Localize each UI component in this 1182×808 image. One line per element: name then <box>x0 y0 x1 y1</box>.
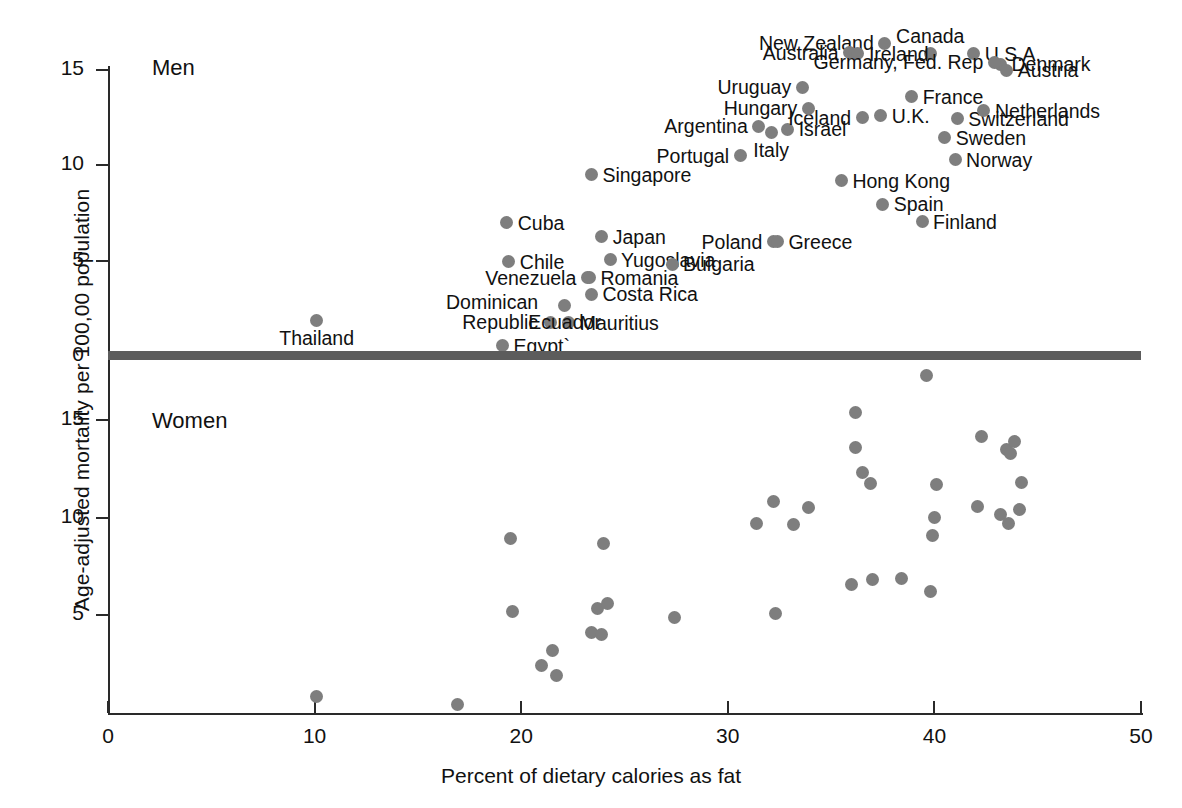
x-tick-30 <box>727 701 729 713</box>
point-label: Italy <box>753 140 789 161</box>
point-label: U.K. <box>892 105 930 126</box>
y-axis-spine <box>108 66 110 713</box>
data-point <box>595 628 608 641</box>
data-point <box>988 56 1001 69</box>
point-label: Japan <box>613 227 666 248</box>
data-point <box>951 112 964 125</box>
point-label: DominicanRepublic <box>446 292 538 333</box>
data-point <box>866 573 879 586</box>
point-label: Norway <box>966 149 1032 170</box>
point-label: Hungary <box>724 98 798 119</box>
data-point <box>583 271 596 284</box>
point-label: Bulgaria <box>683 254 755 275</box>
panel-divider <box>108 351 1141 360</box>
point-label: Venezuela <box>485 267 576 288</box>
data-point <box>506 605 519 618</box>
y-tick-label-men-10: 10 <box>38 151 84 175</box>
data-point <box>585 288 598 301</box>
data-point <box>938 131 951 144</box>
x-tick-label-0: 0 <box>78 724 138 748</box>
data-point <box>926 529 939 542</box>
data-point <box>765 126 778 139</box>
data-point <box>734 149 747 162</box>
data-point <box>930 478 943 491</box>
data-point <box>750 517 763 530</box>
data-point <box>920 369 933 382</box>
data-point <box>597 537 610 550</box>
data-point <box>535 659 548 672</box>
data-point <box>1000 64 1013 77</box>
y-tick-label-men-0: 0 <box>38 342 84 366</box>
data-point <box>500 216 513 229</box>
point-label: Ecuador <box>528 312 601 333</box>
data-point <box>971 500 984 513</box>
point-label: Cuba <box>518 212 565 233</box>
data-point <box>928 511 941 524</box>
data-point <box>752 120 765 133</box>
data-point <box>916 215 929 228</box>
y-tick-women-5 <box>96 614 108 616</box>
data-point <box>1015 476 1028 489</box>
data-point <box>1013 503 1026 516</box>
y-tick-label-women-5: 5 <box>38 601 84 625</box>
point-label: Sweden <box>956 127 1026 148</box>
data-point <box>874 109 887 122</box>
data-point <box>769 607 782 620</box>
data-point <box>949 153 962 166</box>
data-point <box>876 198 889 211</box>
y-tick-men-15 <box>96 69 108 71</box>
x-axis-spine <box>108 713 1143 715</box>
data-point <box>558 299 571 312</box>
data-point <box>849 406 862 419</box>
x-tick-0 <box>107 701 109 713</box>
x-axis-title: Percent of dietary calories as fat <box>0 764 1182 788</box>
data-point <box>451 698 464 711</box>
point-label: Austria <box>1018 60 1079 81</box>
point-label: Finland <box>933 211 997 232</box>
y-tick-label-men-5: 5 <box>38 247 84 271</box>
data-point <box>849 441 862 454</box>
x-tick-label-40: 40 <box>904 724 964 748</box>
data-point <box>666 258 679 271</box>
data-point <box>310 314 323 327</box>
data-point <box>835 174 848 187</box>
x-tick-label-10: 10 <box>285 724 345 748</box>
data-point <box>771 235 784 248</box>
data-point <box>604 253 617 266</box>
y-tick-label-women-10: 10 <box>38 504 84 528</box>
y-tick-men-5 <box>96 260 108 262</box>
data-point <box>802 102 815 115</box>
point-label: Singapore <box>602 165 691 186</box>
y-tick-women-15 <box>96 419 108 421</box>
point-label: Netherlands <box>995 101 1100 122</box>
panel-label-men: Men <box>152 55 195 81</box>
data-point <box>601 597 614 610</box>
x-tick-label-50: 50 <box>1111 724 1171 748</box>
point-label: Costa Rica <box>602 284 697 305</box>
point-label: Argentina <box>664 116 747 137</box>
point-label: Portugal <box>657 145 730 166</box>
data-point <box>787 518 800 531</box>
data-point <box>1004 447 1017 460</box>
chart-canvas: Age-adjusted mortality per 100,00 popula… <box>0 0 1182 808</box>
data-point <box>802 501 815 514</box>
data-point <box>504 532 517 545</box>
x-tick-40 <box>933 701 935 713</box>
x-tick-label-20: 20 <box>491 724 551 748</box>
data-point <box>924 585 937 598</box>
y-tick-label-men-15: 15 <box>38 56 84 80</box>
data-point <box>864 477 877 490</box>
data-point <box>845 578 858 591</box>
data-point <box>1002 517 1015 530</box>
x-tick-label-30: 30 <box>698 724 758 748</box>
panel-label-women: Women <box>152 408 227 434</box>
data-point <box>975 430 988 443</box>
x-tick-50 <box>1140 701 1142 713</box>
point-label: Poland <box>702 231 763 252</box>
data-point <box>905 90 918 103</box>
x-tick-20 <box>520 701 522 713</box>
point-label: Germany, Fed. Rep <box>814 52 984 73</box>
data-point <box>550 669 563 682</box>
point-label: Thailand <box>279 328 354 349</box>
point-label: Hong Kong <box>852 170 950 191</box>
